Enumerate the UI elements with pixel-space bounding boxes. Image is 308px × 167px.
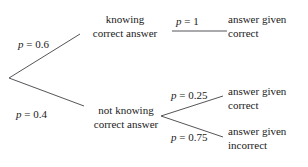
node-not-knowing-correct-answer: not knowing correct answer <box>85 104 167 131</box>
leaf-answer-given-correct-knowing: answer given correct <box>228 13 308 40</box>
probability-label-knowing: p = 0.6 <box>18 38 49 51</box>
probability-value: = 0.4 <box>22 108 47 120</box>
node-label-line-1: knowing <box>82 13 168 27</box>
edge-root-to-not-knowing <box>9 78 84 106</box>
leaf-label-line-1: answer given <box>228 125 308 139</box>
leaf-label-line-2: incorrect <box>228 139 308 153</box>
probability-label-correct-given-not-knowing: p = 0.25 <box>171 89 207 102</box>
probability-value: = 0.6 <box>24 38 49 50</box>
node-label-line-2: correct answer <box>85 118 167 132</box>
leaf-label-line-1: answer given <box>228 85 308 99</box>
probability-value: = 0.25 <box>177 89 208 101</box>
node-label-line-2: correct answer <box>82 27 168 41</box>
leaf-label-line-2: correct <box>228 27 308 41</box>
leaf-label-line-2: correct <box>228 99 308 113</box>
probability-value: = 1 <box>182 15 199 27</box>
leaf-label-line-1: answer given <box>228 13 308 27</box>
node-label-line-1: not knowing <box>85 104 167 118</box>
probability-value: = 0.75 <box>177 131 208 143</box>
leaf-answer-given-incorrect: answer given incorrect <box>228 125 308 152</box>
probability-tree-diagram: p = 0.6 p = 0.4 p = 1 p = 0.25 p = 0.75 … <box>0 0 308 167</box>
probability-label-not-knowing: p = 0.4 <box>16 108 47 121</box>
probability-label-incorrect-given-not-knowing: p = 0.75 <box>171 131 207 144</box>
leaf-answer-given-correct-guess: answer given correct <box>228 85 308 112</box>
probability-label-correct-given-knowing: p = 1 <box>176 15 199 28</box>
node-knowing-correct-answer: knowing correct answer <box>82 13 168 40</box>
